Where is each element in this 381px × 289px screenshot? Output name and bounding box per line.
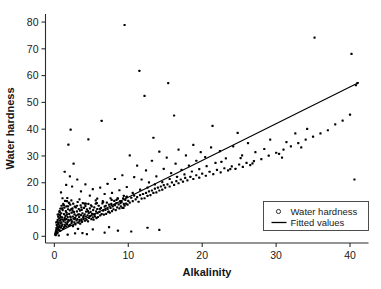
- data-point: [108, 211, 110, 213]
- data-point: [116, 197, 118, 199]
- x-tick-label: 40: [344, 249, 356, 261]
- data-point: [96, 197, 98, 199]
- data-point: [225, 157, 227, 159]
- y-tick-label: 20: [27, 176, 39, 188]
- data-point: [148, 181, 150, 183]
- data-point: [253, 160, 255, 162]
- data-point: [198, 177, 200, 179]
- data-point: [106, 183, 108, 185]
- data-point: [126, 204, 128, 206]
- data-point: [110, 203, 112, 205]
- data-point: [68, 213, 70, 215]
- data-point: [67, 144, 69, 146]
- data-point: [80, 204, 82, 206]
- data-point: [67, 216, 69, 218]
- y-tick-label: 40: [27, 123, 39, 135]
- data-point: [130, 230, 132, 232]
- data-point: [70, 199, 72, 201]
- data-point: [140, 178, 142, 180]
- data-point: [163, 184, 165, 186]
- data-point: [76, 218, 78, 220]
- data-point: [99, 208, 101, 210]
- data-point: [173, 184, 175, 186]
- data-point: [192, 144, 194, 146]
- data-point: [158, 151, 160, 153]
- data-point: [161, 181, 163, 183]
- data-point: [77, 201, 79, 203]
- data-point: [109, 207, 111, 209]
- data-point: [189, 176, 191, 178]
- x-tick-label: 0: [51, 249, 57, 261]
- data-point: [254, 151, 256, 153]
- data-point: [89, 211, 91, 213]
- data-point: [90, 218, 92, 220]
- data-point: [249, 164, 251, 166]
- data-point: [82, 215, 84, 217]
- data-point: [290, 145, 292, 147]
- data-point: [61, 207, 63, 209]
- data-point: [319, 132, 321, 134]
- data-point: [268, 155, 270, 157]
- data-point: [281, 156, 283, 158]
- data-point: [294, 132, 296, 134]
- data-point: [223, 167, 225, 169]
- data-point: [269, 139, 271, 141]
- data-point: [334, 123, 336, 125]
- data-point: [161, 189, 163, 191]
- data-point: [237, 132, 239, 134]
- data-point: [92, 228, 94, 230]
- data-point: [152, 192, 154, 194]
- legend-label-water-hardness: Water hardness: [291, 206, 358, 217]
- data-point: [60, 191, 62, 193]
- data-point: [204, 156, 206, 158]
- data-point: [155, 175, 157, 177]
- data-point: [210, 146, 212, 148]
- data-point: [195, 160, 197, 162]
- data-point: [118, 189, 120, 191]
- data-point: [76, 205, 78, 207]
- data-point: [96, 202, 98, 204]
- data-point: [57, 214, 59, 216]
- data-point: [198, 168, 200, 170]
- data-point: [64, 171, 66, 173]
- data-point: [145, 192, 147, 194]
- data-point: [136, 165, 138, 167]
- data-point: [123, 24, 125, 26]
- data-point: [245, 162, 247, 164]
- data-point: [241, 154, 243, 156]
- y-tick-label: 30: [27, 150, 39, 162]
- data-point: [58, 226, 60, 228]
- data-point: [72, 215, 74, 217]
- data-point: [68, 202, 70, 204]
- data-point: [106, 201, 108, 203]
- data-point: [90, 204, 92, 206]
- data-point: [84, 205, 86, 207]
- x-axis-title: Alkalinity: [183, 266, 233, 278]
- data-point: [108, 204, 110, 206]
- data-point: [139, 194, 141, 196]
- data-point: [174, 163, 176, 165]
- data-point: [306, 128, 308, 130]
- x-tick-label: 10: [122, 249, 134, 261]
- data-point: [180, 178, 182, 180]
- data-point: [183, 173, 185, 175]
- data-point: [158, 229, 160, 231]
- data-point: [117, 230, 119, 232]
- data-point: [104, 193, 106, 195]
- data-point: [313, 36, 315, 38]
- data-point: [247, 142, 249, 144]
- data-point: [195, 174, 197, 176]
- data-point: [81, 209, 83, 211]
- data-point: [175, 180, 177, 182]
- data-point: [67, 205, 69, 207]
- data-point: [63, 207, 65, 209]
- data-point: [60, 221, 62, 223]
- data-point: [263, 148, 265, 150]
- data-point: [84, 183, 86, 185]
- data-point: [108, 226, 110, 228]
- data-point: [81, 232, 83, 234]
- data-point: [99, 186, 101, 188]
- data-point: [151, 160, 153, 162]
- data-point: [60, 218, 62, 220]
- data-point: [63, 213, 65, 215]
